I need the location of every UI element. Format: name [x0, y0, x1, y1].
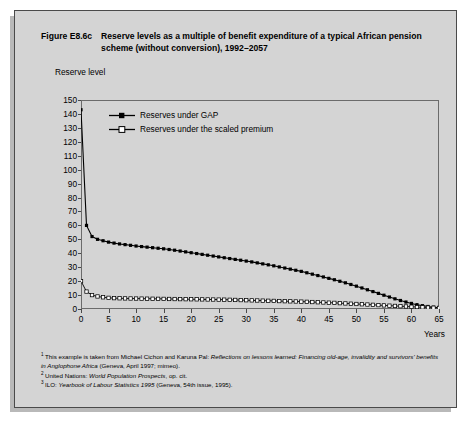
data-point-marker	[118, 242, 121, 245]
data-point-marker	[283, 300, 286, 303]
x-tick-mark	[274, 309, 275, 313]
x-tick-mark	[356, 309, 357, 313]
x-tick-mark	[136, 309, 137, 313]
data-point-marker	[145, 297, 148, 300]
y-tick-label: 0	[47, 304, 77, 314]
data-point-marker	[145, 246, 148, 249]
data-point-marker	[123, 243, 126, 246]
x-tick-mark	[411, 309, 412, 313]
data-point-marker	[388, 304, 391, 307]
data-point-marker	[322, 301, 325, 304]
data-point-marker	[81, 279, 83, 282]
data-point-marker	[267, 263, 270, 266]
data-point-marker	[366, 288, 369, 291]
data-point-marker	[283, 266, 286, 269]
data-point-marker	[184, 250, 187, 253]
data-point-marker	[421, 306, 424, 309]
data-point-marker	[85, 224, 88, 227]
x-tick-label: 35	[269, 314, 278, 324]
data-point-marker	[157, 247, 160, 250]
y-axis-title: Reserve level	[55, 67, 105, 77]
series-line	[81, 110, 439, 308]
data-point-marker	[426, 306, 429, 309]
data-point-marker	[432, 306, 435, 309]
data-point-marker	[81, 108, 83, 111]
data-point-marker	[156, 297, 159, 300]
data-point-marker	[134, 297, 137, 300]
x-tick-label: 15	[159, 314, 168, 324]
data-point-marker	[179, 249, 182, 252]
data-point-marker	[316, 274, 319, 277]
footnote-marker: 1	[41, 352, 44, 357]
data-point-marker	[129, 244, 132, 247]
x-tick-mark	[164, 309, 165, 313]
data-point-marker	[245, 259, 248, 262]
data-point-marker	[140, 297, 143, 300]
data-point-marker	[228, 298, 231, 301]
footnote-text: Yearbook of Labour Statistics 1995	[58, 381, 154, 388]
x-tick-label: 30	[242, 314, 251, 324]
data-point-marker	[371, 303, 374, 306]
data-point-marker	[112, 242, 115, 245]
data-point-marker	[294, 269, 297, 272]
x-tick-label: 45	[324, 314, 333, 324]
data-point-marker	[201, 253, 204, 256]
x-tick-label: 50	[352, 314, 361, 324]
footnote-text: ILO:	[45, 381, 58, 388]
y-tick-label: 40	[47, 248, 77, 258]
data-point-marker	[239, 259, 242, 262]
data-point-marker	[294, 300, 297, 303]
data-point-marker	[289, 300, 292, 303]
data-point-marker	[393, 304, 396, 307]
data-point-marker	[256, 299, 259, 302]
data-point-marker	[217, 255, 220, 258]
chart-area: Reserve level 01020304050607080901001101…	[41, 67, 445, 319]
footnote-text: , op. cit.	[165, 372, 187, 379]
data-point-marker	[355, 285, 358, 288]
data-point-marker	[322, 275, 325, 278]
footnote: 3ILO: Yearbook of Labour Statistics 1995…	[41, 380, 441, 389]
data-point-marker	[410, 305, 413, 308]
data-point-marker	[189, 298, 192, 301]
legend-label: Reserves under the scaled premium	[140, 125, 273, 133]
data-point-marker	[437, 306, 439, 309]
data-point-marker	[190, 251, 193, 254]
data-point-marker	[250, 260, 253, 263]
footnote-marker: 2	[41, 371, 44, 376]
data-point-marker	[388, 295, 391, 298]
data-point-marker	[211, 298, 214, 301]
data-point-marker	[239, 298, 242, 301]
data-point-marker	[173, 249, 176, 252]
data-point-marker	[178, 297, 181, 300]
data-point-marker	[206, 298, 209, 301]
data-point-marker	[305, 300, 308, 303]
data-point-marker	[272, 299, 275, 302]
y-tick-label: 100	[47, 165, 77, 175]
data-point-marker	[338, 301, 341, 304]
x-tick-mark	[219, 309, 220, 313]
data-series	[81, 108, 439, 309]
y-tick-label: 140	[47, 109, 77, 119]
data-point-marker	[404, 300, 407, 303]
data-point-marker	[261, 299, 264, 302]
x-tick-label: 60	[407, 314, 416, 324]
data-point-marker	[223, 256, 226, 259]
data-point-marker	[112, 296, 115, 299]
footnote-text: World Population Prospects	[89, 372, 165, 379]
data-point-marker	[338, 280, 341, 283]
data-point-marker	[300, 270, 303, 273]
x-axis-title: Years	[424, 329, 445, 339]
data-point-marker	[267, 299, 270, 302]
data-point-marker	[349, 283, 352, 286]
x-tick-label: 10	[131, 314, 140, 324]
data-point-marker	[195, 252, 198, 255]
data-point-marker	[90, 235, 93, 238]
x-tick-mark	[191, 309, 192, 313]
x-tick-label: 20	[187, 314, 196, 324]
data-point-marker	[311, 300, 314, 303]
data-point-marker	[107, 241, 110, 244]
footnote-text: This example is taken from Michael Cicho…	[45, 353, 211, 360]
data-point-marker	[377, 303, 380, 306]
data-point-marker	[101, 296, 104, 299]
data-point-marker	[289, 268, 292, 271]
